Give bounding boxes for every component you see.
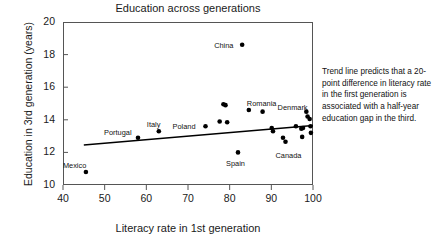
data-point [300, 135, 305, 140]
data-point [271, 129, 276, 134]
point-label-mexico: Mexico [63, 161, 86, 170]
data-point [240, 43, 245, 48]
data-point [247, 108, 252, 113]
data-point [283, 140, 288, 145]
point-label-portugal: Portugal [104, 128, 132, 137]
data-point [236, 150, 241, 155]
point-label-canada: Canada [276, 151, 302, 160]
point-label-denmark: Denmark [278, 103, 308, 112]
data-point [308, 124, 313, 129]
data-point [260, 109, 265, 114]
data-point [309, 131, 314, 136]
data-point [301, 126, 306, 131]
data-point [217, 119, 222, 124]
data-point [203, 124, 208, 129]
data-point [294, 124, 299, 129]
data-point [307, 117, 312, 122]
data-point [223, 103, 228, 108]
data-point [281, 135, 286, 140]
point-label-spain: Spain [226, 159, 245, 168]
data-point [157, 129, 162, 134]
trend-annotation: Trend line predicts that a 20-point diff… [322, 66, 434, 124]
point-label-italy: Italy [147, 120, 161, 129]
data-point [225, 120, 230, 125]
data-point [136, 135, 141, 140]
point-label-china: China [214, 41, 233, 50]
point-label-poland: Poland [173, 122, 196, 131]
point-label-romania: Romania [247, 99, 277, 108]
data-point [84, 170, 89, 175]
chart-figure: Education across generations Education i… [0, 0, 437, 243]
